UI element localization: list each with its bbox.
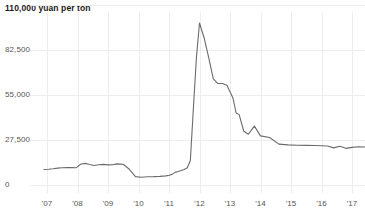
x-axis-tick-label: '16 <box>309 199 335 208</box>
x-axis-tick-label: '14 <box>248 199 274 208</box>
data-series-line <box>44 23 365 177</box>
x-axis-tick-label: '10 <box>126 199 152 208</box>
x-axis-tick-label: '07 <box>34 199 60 208</box>
x-axis-tick-label: '17 <box>339 199 365 208</box>
y-axis-tick-label: 55,000 <box>5 90 30 99</box>
x-axis-tick-label: '09 <box>95 199 121 208</box>
x-axis-tick-label: '11 <box>156 199 182 208</box>
x-axis-tick-label: '08 <box>65 199 91 208</box>
y-axis-tick-label: 27,500 <box>5 135 30 144</box>
chart-svg <box>0 0 365 219</box>
x-axis-tick-label: '12 <box>187 199 213 208</box>
x-axis-tick-label: '13 <box>217 199 243 208</box>
y-axis-tick-label: 82,500 <box>5 45 30 54</box>
x-axis-tick-label: '15 <box>278 199 304 208</box>
y-axis-tick-label: 0 <box>5 180 10 189</box>
plot-area <box>0 0 365 219</box>
price-line-chart: 110,000 yuan per ton 82,50055,00027,5000… <box>0 0 365 219</box>
series-line-path <box>44 23 365 177</box>
